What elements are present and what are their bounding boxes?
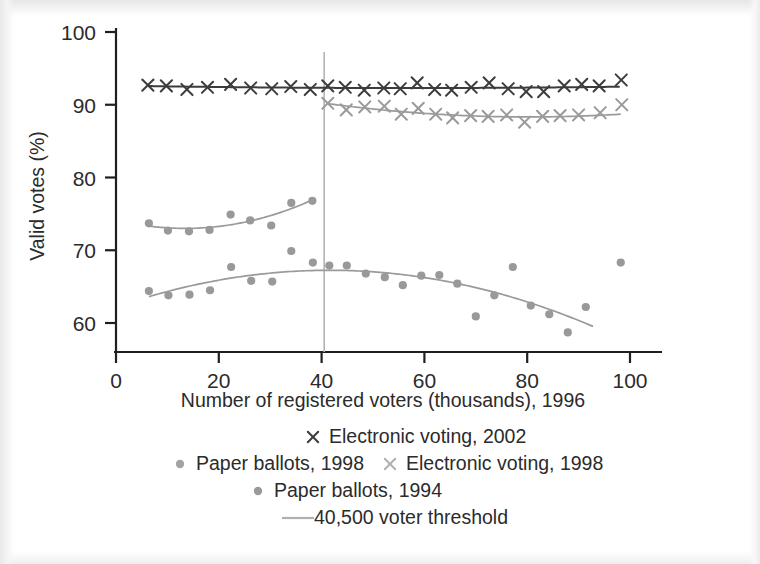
trend-line (328, 104, 621, 117)
data-point-dot (287, 247, 295, 255)
data-point-dot (417, 272, 425, 280)
legend-item[interactable]: Electronic voting, 2002 (308, 425, 526, 447)
data-point-dot (185, 291, 193, 299)
legend-item[interactable]: Paper ballots, 1994 (254, 479, 442, 501)
data-point-dot (617, 259, 625, 267)
legend-label: 40,500 voter threshold (314, 506, 508, 528)
y-axis-tick-label: 80 (73, 167, 96, 190)
data-point-dot (399, 281, 407, 289)
data-point-dot (490, 291, 498, 299)
data-point-dot (227, 263, 235, 271)
series-3 (145, 247, 625, 337)
series-0 (142, 74, 627, 97)
data-point-dot (343, 261, 351, 269)
x-axis-tick-label: 100 (612, 369, 647, 392)
data-point-dot (308, 197, 316, 205)
data-point-dot (509, 263, 517, 271)
y-axis-title: Valid votes (%) (26, 131, 48, 261)
data-point-dot (362, 269, 370, 277)
data-point-dot (287, 199, 295, 207)
y-axis-tick-label: 70 (73, 239, 96, 262)
legend-marker-dot (254, 487, 262, 495)
data-point-dot (453, 280, 461, 288)
legend-label: Electronic voting, 1998 (406, 452, 603, 474)
axes: 10090807060020406080100Valid votes (%)Nu… (26, 21, 662, 411)
legend-label: Electronic voting, 2002 (329, 425, 526, 447)
data-point-dot (381, 273, 389, 281)
legend-item[interactable]: Paper ballots, 1998 (176, 452, 364, 474)
series-2 (145, 197, 317, 236)
legend-item[interactable]: Electronic voting, 1998 (385, 452, 603, 474)
data-point-dot (164, 227, 172, 235)
data-point-dot (545, 310, 553, 318)
series-1 (322, 98, 627, 128)
data-point-dot (564, 328, 572, 336)
data-point-dot (325, 261, 333, 269)
x-axis-tick-label: 0 (110, 369, 122, 392)
data-point-dot (267, 221, 275, 229)
data-point-dot (246, 216, 254, 224)
data-point-dot (435, 271, 443, 279)
y-axis-tick-label: 100 (61, 21, 96, 44)
data-point-dot (268, 277, 276, 285)
legend-item[interactable]: 40,500 voter threshold (282, 506, 508, 528)
x-axis-title: Number of registered voters (thousands),… (181, 389, 585, 411)
legend: Electronic voting, 2002Paper ballots, 19… (176, 425, 603, 528)
y-axis-tick-label: 60 (73, 312, 96, 335)
data-point-dot (185, 227, 193, 235)
data-point-dot (527, 301, 535, 309)
data-point-dot (164, 291, 172, 299)
data-point-dot (205, 226, 213, 234)
legend-label: Paper ballots, 1994 (274, 479, 442, 501)
data-point-dot (206, 286, 214, 294)
data-point-dot (472, 312, 480, 320)
data-point-dot (247, 277, 255, 285)
chart-figure: 10090807060020406080100Valid votes (%)Nu… (0, 0, 760, 564)
data-point-dot (145, 287, 153, 295)
trend-line (149, 270, 593, 326)
legend-label: Paper ballots, 1998 (196, 452, 364, 474)
data-point-dot (227, 211, 235, 219)
data-point-dot (582, 303, 590, 311)
legend-marker-dot (176, 460, 184, 468)
data-point-dot (309, 259, 317, 267)
data-point-dot (145, 219, 153, 227)
y-axis-tick-label: 90 (73, 94, 96, 117)
